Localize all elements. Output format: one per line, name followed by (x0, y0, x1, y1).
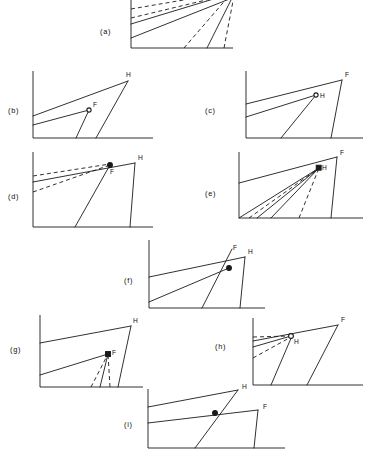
panel-b: F H (b) (8, 71, 153, 138)
panel-h-dashed-1 (253, 336, 291, 337)
panel-e-axes (239, 152, 363, 218)
panel-f-label-f: F (233, 244, 237, 251)
panel-e: H F (e) (205, 149, 363, 218)
panel-c-lower-shallow (246, 95, 316, 117)
panel-f-steep-h (240, 257, 245, 308)
panel-g-upper-shallow (40, 326, 131, 343)
panel-d-steep-h (130, 163, 135, 227)
panel-b-steep-h (96, 81, 128, 138)
panel-e-label-f: F (340, 149, 344, 156)
panel-h-axes (253, 318, 363, 385)
panel-d-label-h: H (138, 154, 143, 161)
panel-e-label-h: H (322, 164, 327, 171)
panel-i-lower-shallow (148, 410, 258, 423)
panel-c-upper-shallow (246, 80, 342, 104)
panel-c-steep-h (281, 95, 316, 138)
panel-e-lower-shallow (239, 168, 319, 218)
panel-f-label-h: H (248, 248, 253, 255)
panel-g-lower-shallow (40, 354, 108, 375)
panel-a: (a) (100, 0, 234, 48)
figure-canvas: (a) F H (b) H F (c) (0, 0, 370, 474)
panel-a-solid-2 (131, 0, 230, 24)
panel-c-steep-f (331, 80, 342, 138)
panel-g-label: (g) (10, 345, 21, 354)
panel-d: F H (d) (8, 152, 153, 227)
panel-d-node-f (108, 163, 113, 168)
panel-g-steep-h (118, 326, 131, 387)
panel-c-axes (246, 71, 363, 138)
panel-e-label: (e) (205, 189, 216, 198)
panel-h: H F (h) (215, 316, 363, 385)
panel-b-label-f: F (93, 101, 97, 108)
panel-i-upper-shallow (148, 390, 238, 407)
panel-g-label-h: H (133, 317, 138, 324)
panel-f-lower-shallow (149, 268, 229, 302)
panel-a-steep-dashed-2 (224, 0, 234, 48)
panel-f-label: (f) (124, 276, 133, 285)
panel-i-steep-h (195, 390, 238, 448)
panel-d-steep-f (75, 165, 110, 227)
panel-g-label-f: F (112, 349, 116, 356)
panel-g: F H (g) (10, 315, 143, 387)
panel-e-steep-f (331, 157, 337, 218)
panel-h-label-h: H (294, 338, 299, 345)
panel-g-dashed-1 (91, 354, 108, 387)
panel-f-steep-f (202, 249, 232, 308)
panel-i-label: (i) (124, 420, 133, 429)
panel-g-dashed-2 (108, 354, 110, 387)
panel-c-label: (c) (205, 106, 216, 115)
panel-i: H F (i) (124, 383, 285, 448)
panel-h-label: (h) (215, 342, 226, 351)
panel-d-label-f: F (110, 168, 114, 175)
panel-i-label-h: H (242, 383, 247, 390)
panel-h-label-f: F (341, 316, 345, 323)
panel-e-node-h (316, 165, 321, 170)
panel-a-steep-dashed-1 (184, 0, 229, 48)
panel-c: H F (c) (205, 71, 363, 138)
panel-h-steep-f (307, 325, 338, 385)
panel-a-axes (131, 0, 233, 48)
panel-c-label-h: H (320, 92, 325, 99)
panel-c-label-f: F (345, 71, 349, 78)
panel-f-node (227, 266, 232, 271)
panel-h-steep-h (271, 336, 292, 385)
panel-a-label: (a) (100, 27, 111, 36)
panel-g-node-f (106, 352, 111, 357)
panel-e-fan-dashed-1 (249, 168, 319, 218)
panel-b-upper-shallow (33, 81, 128, 116)
panel-b-node-f (87, 108, 91, 112)
panel-d-label: (d) (8, 192, 19, 201)
panel-b-label: (b) (8, 106, 19, 115)
panel-b-label-h: H (126, 71, 131, 78)
panel-h-node-h (289, 334, 294, 339)
panel-d-dashed-2 (33, 165, 110, 192)
panel-b-steep-f (76, 110, 89, 138)
panel-g-axes (40, 315, 143, 387)
panel-d-upper-shallow (33, 163, 135, 182)
panel-i-node (213, 411, 218, 416)
figure-root: (a) F H (b) H F (c) (0, 0, 370, 474)
panel-c-node-h (314, 93, 318, 97)
panel-f: F H (f) (124, 240, 265, 308)
panel-b-lower-shallow (33, 110, 89, 125)
panel-g-steep-f (100, 354, 108, 387)
panel-i-steep-f (254, 410, 258, 448)
panel-i-label-f: F (263, 403, 267, 410)
